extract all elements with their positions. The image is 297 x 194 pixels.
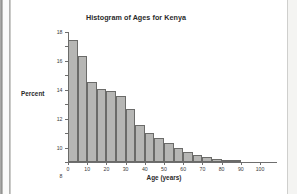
histogram-bar xyxy=(135,125,145,162)
x-axis-tick-label: 60 xyxy=(180,166,186,172)
x-axis-tick-label: 0 xyxy=(67,166,70,172)
x-axis-label: Age (years) xyxy=(68,174,260,181)
histogram-bar xyxy=(68,40,78,162)
y-axis-tick-label: 8 xyxy=(60,173,63,179)
x-axis-tick xyxy=(222,162,223,165)
histogram-bar xyxy=(87,82,97,162)
x-axis-tick xyxy=(126,162,127,165)
histogram-bar xyxy=(154,138,164,162)
x-axis-tick xyxy=(145,162,146,165)
y-axis-tick-label: 16 xyxy=(57,58,63,64)
histogram-bar xyxy=(183,152,193,162)
histogram-bar xyxy=(231,160,241,162)
y-axis-tick-label: 12 xyxy=(57,116,63,122)
histogram-chart: Histogram of Ages for Kenya Percent Age … xyxy=(11,0,289,194)
plot-area: 0246810121416180102030405060708090100 xyxy=(68,32,260,162)
y-axis-tick: 18 xyxy=(65,32,68,33)
y-axis-tick-label: 18 xyxy=(57,29,63,35)
x-axis-tick-label: 30 xyxy=(123,166,129,172)
histogram-bar xyxy=(78,56,88,162)
y-axis-tick-label: 14 xyxy=(57,87,63,93)
x-axis-tick-label: 40 xyxy=(142,166,148,172)
histogram-bar xyxy=(193,155,203,162)
screenshot-root: Histogram of Ages for Kenya Percent Age … xyxy=(0,0,297,194)
chart-title: Histogram of Ages for Kenya xyxy=(11,13,261,22)
x-axis-tick xyxy=(68,162,69,165)
x-axis-tick-label: 70 xyxy=(200,166,206,172)
histogram-bar xyxy=(106,91,116,162)
y-axis-tick-label: 10 xyxy=(57,145,63,151)
histogram-bar xyxy=(202,157,212,162)
page-outer-margin-right xyxy=(288,0,297,194)
x-axis-tick-label: 100 xyxy=(256,166,265,172)
x-axis-tick-label: 10 xyxy=(84,166,90,172)
histogram-bar xyxy=(174,148,184,162)
x-axis-tick xyxy=(164,162,165,165)
x-axis-tick-label: 50 xyxy=(161,166,167,172)
histogram-bar xyxy=(97,89,107,162)
histogram-bar xyxy=(126,109,136,162)
x-axis-tick-label: 90 xyxy=(238,166,244,172)
histogram-bar xyxy=(212,159,222,162)
x-axis-tick xyxy=(183,162,184,165)
x-axis-line xyxy=(68,162,277,163)
histogram-bar xyxy=(145,133,155,162)
x-axis-tick xyxy=(202,162,203,165)
histogram-bar xyxy=(116,96,126,162)
histogram-bar xyxy=(222,160,232,162)
y-axis-label: Percent xyxy=(21,90,44,97)
x-axis-tick xyxy=(260,162,261,165)
x-axis-tick xyxy=(106,162,107,165)
x-axis-tick-label: 80 xyxy=(219,166,225,172)
x-axis-tick-label: 20 xyxy=(104,166,110,172)
histogram-bar xyxy=(164,143,174,162)
x-axis-tick xyxy=(241,162,242,165)
x-axis-tick xyxy=(87,162,88,165)
